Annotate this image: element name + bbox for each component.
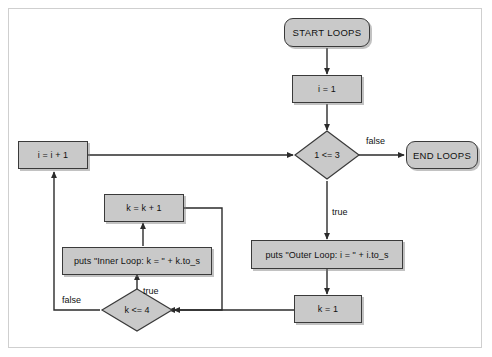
node-i-init[interactable]: i = 1 xyxy=(292,75,362,103)
edge-label-i-cond-true-text: true xyxy=(332,207,348,217)
flowchart-canvas: START LOOPS i = 1 1 <= 3 END LOOPS i = i… xyxy=(0,0,492,357)
node-start-loops[interactable]: START LOOPS xyxy=(284,18,370,47)
node-outer-puts-label: puts "Outer Loop: i = " + i.to_s xyxy=(265,250,388,260)
node-k-incr-label: k = k + 1 xyxy=(126,203,161,213)
node-i-incr-label: i = i + 1 xyxy=(38,150,68,160)
node-k-cond-label: k <= 4 xyxy=(124,305,149,315)
node-inner-puts[interactable]: puts "Inner Loop: k = " + k.to_s xyxy=(62,247,212,275)
edge-label-k-cond-false-text: false xyxy=(62,295,81,305)
node-end-loops[interactable]: END LOOPS xyxy=(406,141,478,169)
node-k-incr[interactable]: k = k + 1 xyxy=(104,194,184,222)
node-k-init[interactable]: k = 1 xyxy=(294,295,362,323)
node-end-loops-label: END LOOPS xyxy=(413,150,471,161)
node-inner-puts-label: puts "Inner Loop: k = " + k.to_s xyxy=(74,256,200,266)
edge-label-i-cond-true: true xyxy=(332,207,348,217)
edge-kcond-false-to-iincr xyxy=(54,172,100,310)
edge-label-i-cond-false-text: false xyxy=(366,136,385,146)
node-i-cond-label: 1 <= 3 xyxy=(314,150,340,160)
edge-label-k-cond-true-text: true xyxy=(143,286,159,296)
node-k-cond-label-wrap: k <= 4 xyxy=(107,303,167,317)
node-i-incr[interactable]: i = i + 1 xyxy=(18,141,88,169)
edge-label-i-cond-false: false xyxy=(366,136,385,146)
node-k-init-label: k = 1 xyxy=(318,304,338,314)
node-start-loops-label: START LOOPS xyxy=(293,27,362,38)
edge-label-k-cond-true: true xyxy=(143,286,159,296)
edge-label-k-cond-false: false xyxy=(62,295,81,305)
node-outer-puts[interactable]: puts "Outer Loop: i = " + i.to_s xyxy=(251,240,403,269)
node-i-init-label: i = 1 xyxy=(318,84,336,94)
node-i-cond-label-wrap: 1 <= 3 xyxy=(297,148,357,162)
